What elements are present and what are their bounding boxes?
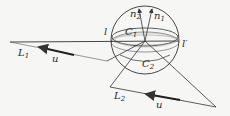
label-l: l xyxy=(104,26,107,37)
label-n1: n1 xyxy=(154,10,165,23)
center-to-l2-start xyxy=(110,41,145,87)
label-l1: L1 xyxy=(17,47,29,60)
center-to-l2-end xyxy=(145,41,216,107)
label-l-prime: l′ xyxy=(182,38,188,49)
sphere-lines-diagram: n2 n1 l l′ C1 C2 L1 u L2 u xyxy=(0,0,230,116)
label-l2: L2 xyxy=(113,90,126,103)
normal-n1-arrow xyxy=(145,9,152,41)
circle-c1 xyxy=(112,28,178,46)
label-u-top: u xyxy=(52,53,58,64)
label-n2: n2 xyxy=(130,8,141,21)
label-c2: C2 xyxy=(142,58,155,71)
line-l1 xyxy=(10,41,178,42)
label-c1: C1 xyxy=(125,26,137,39)
label-u-bottom: u xyxy=(156,99,162,110)
direction-arrow-u-bottom xyxy=(146,94,180,100)
